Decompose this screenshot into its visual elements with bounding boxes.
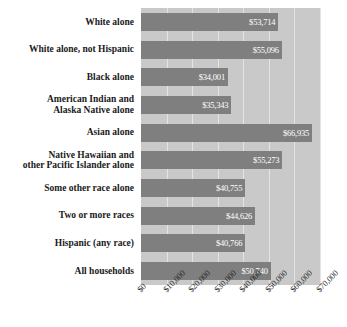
bar-value-label: $53,714 [249, 17, 275, 27]
chart-title-cropped [141, 0, 320, 8]
gridline [294, 8, 295, 285]
category-label: Black alone [0, 63, 134, 91]
category-label-line: Black alone [87, 72, 134, 83]
category-label: Hispanic (any race) [0, 230, 134, 258]
category-label: Asian alone [0, 119, 134, 147]
category-label-line: Alaska Native alone [53, 105, 134, 116]
bar-value-label: $66,935 [283, 128, 309, 138]
bar-value-label: $55,273 [253, 155, 279, 165]
x-axis-tick-labels: $0$10,000$20,000$30,000$40,000$50,000$60… [141, 287, 327, 327]
category-label-line: American Indian and [47, 94, 134, 105]
category-label: White alone, not Hispanic [0, 36, 134, 64]
bar-chart: White aloneWhite alone, not HispanicBlac… [0, 0, 347, 327]
category-label-line: Native Hawaiian and [48, 150, 134, 161]
bar[interactable]: $55,273 [141, 151, 282, 169]
category-label-line: All households [75, 266, 134, 277]
category-label: American Indian andAlaska Native alone [0, 91, 134, 119]
bar-value-label: $40,755 [216, 183, 242, 193]
plot-area: $53,714$55,096$34,001$35,343$66,935$55,2… [141, 8, 320, 285]
category-label-line: Asian alone [87, 127, 134, 138]
bar[interactable]: $53,714 [141, 13, 278, 31]
bar[interactable]: $34,001 [141, 68, 228, 86]
bar[interactable]: $35,343 [141, 96, 231, 114]
bar-value-label: $44,626 [226, 211, 252, 221]
category-label-line: White alone, not Hispanic [29, 44, 134, 55]
bar-value-label: $34,001 [199, 72, 225, 82]
category-label: Some other race alone [0, 174, 134, 202]
category-label-line: Hispanic (any race) [55, 238, 134, 249]
bar-value-label: $40,766 [216, 238, 242, 248]
category-axis-labels: White aloneWhite alone, not HispanicBlac… [0, 8, 138, 285]
bar[interactable]: $55,096 [141, 41, 282, 59]
category-label: Native Hawaiian andother Pacific Islande… [0, 147, 134, 175]
category-label-line: Two or more races [59, 210, 134, 221]
category-label: Two or more races [0, 202, 134, 230]
category-label: White alone [0, 8, 134, 36]
gridline [320, 8, 321, 285]
bar[interactable]: $40,766 [141, 234, 245, 252]
bar[interactable]: $44,626 [141, 207, 255, 225]
category-label-line: White alone [85, 17, 134, 28]
bar-value-label: $35,343 [202, 100, 228, 110]
category-label-line: Some other race alone [44, 183, 134, 194]
bar[interactable]: $66,935 [141, 124, 312, 142]
bar[interactable]: $40,755 [141, 179, 245, 197]
category-label-line: other Pacific Islander alone [23, 160, 134, 171]
bar-value-label: $55,096 [253, 45, 279, 55]
category-label: All households [0, 257, 134, 285]
